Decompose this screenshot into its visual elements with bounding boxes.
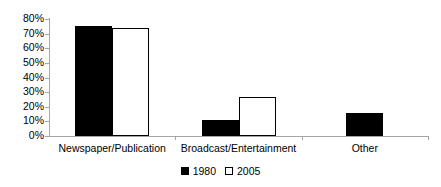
x-axis-category-label: Newspaper/Publication: [49, 142, 175, 154]
bar-2005-2: [239, 97, 276, 136]
x-axis-category-label: Other: [302, 142, 428, 154]
y-axis-tick-label-text: 80%: [2, 13, 44, 24]
y-axis-tick-label: 40%: [0, 72, 44, 83]
y-axis-tick-label: 0%: [0, 130, 44, 141]
y-axis-tick-label: 20%: [0, 101, 44, 112]
plot-area: [49, 19, 428, 136]
y-axis-tick-label: 80%: [0, 13, 44, 24]
legend-item-1980: 1980: [181, 166, 216, 177]
legend-label: 1980: [193, 166, 216, 177]
y-axis-tick-label-text: 70%: [2, 28, 44, 39]
bar-1980-2: [202, 120, 239, 136]
y-axis-tick-label-text: 30%: [2, 86, 44, 97]
bar-1980-3: [346, 113, 383, 136]
y-axis-tick-label-text: 10%: [2, 115, 44, 126]
y-axis-tick-label: 50%: [0, 57, 44, 68]
y-axis-tick-label-text: 60%: [2, 42, 44, 53]
chart-legend: 19802005: [0, 166, 441, 177]
y-axis-tick-label-text: 20%: [2, 101, 44, 112]
y-axis-tick-label: 30%: [0, 86, 44, 97]
bar-2005-1: [112, 28, 149, 136]
y-axis-tick-label: 60%: [0, 42, 44, 53]
legend-swatch-2005: [225, 167, 233, 175]
y-axis-tick-label-text: 50%: [2, 57, 44, 68]
x-axis-separator-tick: [302, 136, 303, 140]
legend-item-2005: 2005: [225, 166, 260, 177]
x-axis-separator-tick: [428, 136, 429, 140]
legend-label: 2005: [237, 166, 260, 177]
y-axis-tick-label-text: 0%: [2, 130, 44, 141]
x-axis-category-label: Broadcast/Entertainment: [175, 142, 301, 154]
y-axis-tick-label-text: 40%: [2, 72, 44, 83]
legend-swatch-1980: [181, 167, 189, 175]
bar-chart: 0%10%20%30%40%50%60%70%80% Newspaper/Pub…: [0, 0, 441, 187]
y-axis-tick-label: 10%: [0, 115, 44, 126]
y-axis-tick-label: 70%: [0, 28, 44, 39]
x-axis-separator-tick: [175, 136, 176, 140]
x-axis-line: [49, 136, 428, 137]
bar-1980-1: [75, 26, 112, 136]
